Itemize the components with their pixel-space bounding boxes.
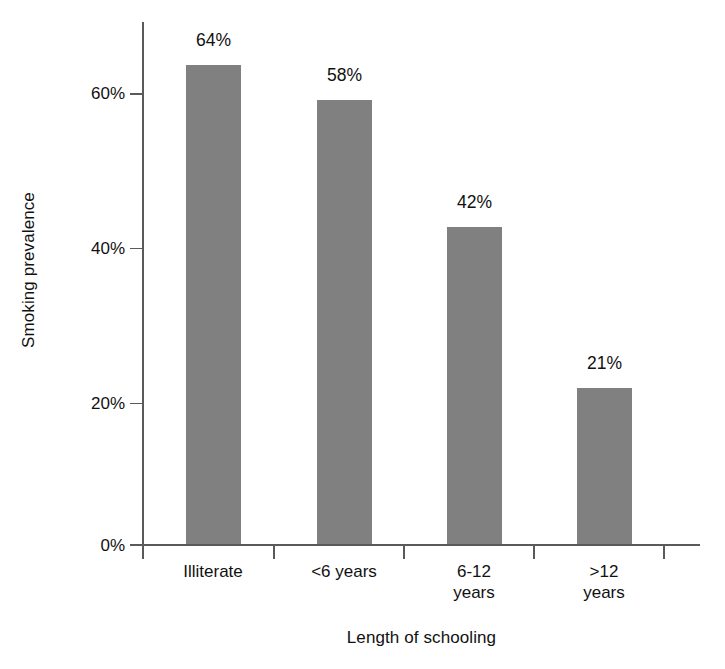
x-axis-title: Length of schooling	[143, 628, 700, 648]
x-category-label-over-12-years: >12 years	[539, 561, 669, 603]
x-category-label-illiterate: Illiterate	[148, 561, 278, 582]
x-category-label-under-6-years: <6 years	[279, 561, 409, 582]
x-axis-line	[142, 544, 700, 546]
x-tick-mark-4	[663, 546, 665, 559]
bar-chart: Smoking prevalence 0% 20% 40% 60% 64% 58…	[0, 0, 725, 669]
x-tick-mark-1	[273, 546, 275, 559]
y-tick-label-60: 60%	[5, 85, 125, 102]
bar-value-label-under-6-years: 58%	[285, 67, 405, 85]
x-tick-mark-0	[142, 546, 144, 559]
bar-under-6-years[interactable]	[317, 100, 372, 544]
bar-value-label-illiterate: 64%	[154, 32, 274, 50]
x-category-label-6-to-12-years: 6-12 years	[409, 561, 539, 603]
y-axis-title: Smoking prevalence	[14, 40, 44, 500]
bar-value-label-6-to-12-years: 42%	[415, 194, 535, 212]
x-tick-mark-2	[403, 546, 405, 559]
y-tick-label-0: 0%	[5, 537, 125, 554]
bar-over-12-years[interactable]	[577, 388, 632, 545]
bar-illiterate[interactable]	[186, 65, 241, 545]
y-tick-label-40: 40%	[5, 240, 125, 257]
x-tick-mark-3	[533, 546, 535, 559]
y-axis-line	[142, 22, 144, 546]
y-tick-label-20: 20%	[5, 395, 125, 412]
bar-6-to-12-years[interactable]	[447, 227, 502, 544]
bar-value-label-over-12-years: 21%	[545, 355, 665, 373]
